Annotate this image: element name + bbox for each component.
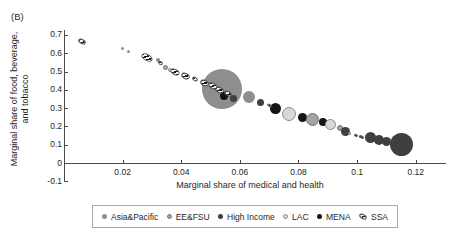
legend-marker-high-icon <box>218 214 223 219</box>
y-tick-mark <box>65 126 68 127</box>
data-point-asia <box>243 91 255 103</box>
legend-label-high: High Income <box>227 212 275 222</box>
x-tick-mark <box>298 160 299 163</box>
legend-item-asia: Asia&Pacific <box>102 212 158 222</box>
legend-label-mena: MENA <box>326 212 351 222</box>
legend-item-high: High Income <box>218 212 275 222</box>
y-tick-label: 0 <box>32 159 62 168</box>
data-point-asia <box>348 132 351 135</box>
data-point-lac <box>325 119 336 130</box>
legend-item-lac: LAC <box>283 212 309 222</box>
x-tick-label: 0.12 <box>401 167 431 177</box>
y-axis-title-line2: and tobacco <box>20 19 31 179</box>
y-tick-label: 0.7 <box>32 30 62 39</box>
legend-label-lac: LAC <box>292 212 309 222</box>
legend-marker-lac-icon <box>283 214 288 219</box>
x-tick-label: 0.1 <box>342 167 372 177</box>
y-axis-title: Marginal share of food, beverage, and to… <box>9 19 31 179</box>
data-point-eefsu <box>306 113 319 126</box>
y-tick-mark <box>65 181 68 182</box>
y-tick-mark <box>65 72 68 73</box>
x-tick-label: 0.04 <box>166 167 196 177</box>
legend-marker-asia-icon <box>102 214 107 219</box>
y-tick-label: 0.2 <box>32 122 62 131</box>
y-axis-title-line1: Marginal share of food, beverage, <box>9 19 20 179</box>
scatter-figure: (B) Marginal share of food, beverage, an… <box>0 0 454 236</box>
x-tick-mark <box>357 160 358 163</box>
y-tick-mark <box>65 35 68 36</box>
y-tick-mark <box>65 163 68 164</box>
data-point-ssa <box>180 71 191 81</box>
data-point-ssa <box>353 133 358 138</box>
y-tick-mark <box>65 90 68 91</box>
y-tick-label: 0.4 <box>32 85 62 94</box>
data-point-high <box>390 133 413 156</box>
data-point-ssa <box>77 37 86 45</box>
legend-item-eefsu: EE&FSU <box>167 212 210 222</box>
data-point-lac <box>282 107 296 121</box>
y-tick-mark <box>65 145 68 146</box>
legend-label-asia: Asia&Pacific <box>111 212 158 222</box>
x-tick-label: 0.08 <box>283 167 313 177</box>
y-tick-label: 0.6 <box>32 49 62 58</box>
x-tick-mark <box>181 160 182 163</box>
legend-item-ssa: SSA <box>359 212 388 222</box>
legend-marker-ssa-icon <box>358 212 367 220</box>
data-point-high <box>257 99 264 106</box>
legend-item-mena: MENA <box>317 212 351 222</box>
x-axis-title: Marginal share of medical and health <box>95 180 405 190</box>
y-tick-label: 0.5 <box>32 67 62 76</box>
x-axis-line <box>64 163 446 164</box>
y-tick-label: 0.3 <box>32 104 62 113</box>
legend-marker-eefsu-icon <box>167 214 172 219</box>
x-tick-mark <box>416 160 417 163</box>
data-point-asia <box>127 50 130 53</box>
legend-label-ssa: SSA <box>371 212 388 222</box>
x-tick-mark <box>123 160 124 163</box>
x-tick-mark <box>240 160 241 163</box>
legend-label-eefsu: EE&FSU <box>176 212 210 222</box>
data-point-asia <box>121 47 124 50</box>
y-tick-label: 0.1 <box>32 140 62 149</box>
y-tick-mark <box>65 53 68 54</box>
data-point-ssa <box>191 76 198 82</box>
data-point-ssa <box>140 51 154 63</box>
data-point-ssa <box>170 67 182 77</box>
x-tick-label: 0.02 <box>108 167 138 177</box>
y-tick-mark <box>65 108 68 109</box>
chart-legend: Asia&PacificEE&FSUHigh IncomeLACMENASSA <box>92 205 398 228</box>
y-tick-label: -0.1 <box>32 177 62 186</box>
x-tick-label: 0.06 <box>225 167 255 177</box>
legend-marker-mena-icon <box>317 214 322 219</box>
